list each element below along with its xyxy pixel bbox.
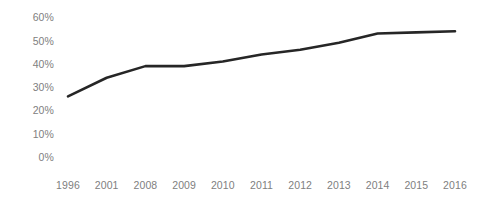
data-series-line [68, 31, 455, 96]
plot-area [0, 0, 484, 202]
x-axis-tick-label: 2012 [288, 180, 312, 191]
x-axis-tick-label: 2016 [443, 180, 467, 191]
x-axis-tick-label: 2001 [95, 180, 119, 191]
x-axis-tick-label: 2009 [172, 180, 196, 191]
line-chart: 0%10%20%30%40%50%60% 1996200120082009201… [0, 0, 484, 202]
x-axis-tick-label: 2010 [211, 180, 235, 191]
x-axis-tick-label: 2014 [366, 180, 390, 191]
x-axis-tick-label: 2013 [327, 180, 351, 191]
x-axis-tick-label: 1996 [56, 180, 80, 191]
x-axis-tick-label: 2008 [134, 180, 158, 191]
x-axis-tick-label: 2015 [404, 180, 428, 191]
x-axis-tick-label: 2011 [250, 180, 273, 191]
